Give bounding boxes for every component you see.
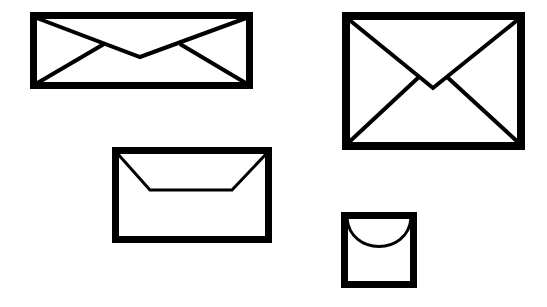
envelope-large-wide xyxy=(34,16,250,86)
envelope-medium xyxy=(116,151,269,240)
envelope-small-body xyxy=(345,216,414,285)
envelope-large-tall xyxy=(346,16,521,146)
envelope-large-wide-body xyxy=(34,16,250,86)
envelope-large-tall-body xyxy=(346,16,521,146)
illustration-canvas xyxy=(0,0,547,307)
envelope-medium-body xyxy=(116,151,269,240)
envelope-small xyxy=(345,216,414,285)
envelopes-illustration xyxy=(0,0,547,307)
